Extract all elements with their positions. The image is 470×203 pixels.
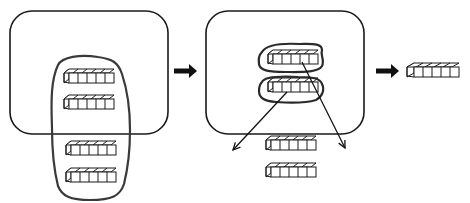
arrow-split-right-icon: [302, 62, 345, 148]
panel-1: [10, 11, 168, 200]
cube-bar: [266, 136, 316, 150]
cube-bar: [266, 163, 316, 177]
cube-bar: [66, 141, 116, 155]
cube-bar: [64, 69, 114, 83]
cube-bar: [64, 95, 114, 109]
cube-bar: [407, 63, 459, 77]
bar-group-2-outside: [266, 136, 316, 177]
panel-3: [407, 63, 459, 77]
arrow-2-icon: [376, 64, 399, 78]
arrow-1-icon: [174, 64, 197, 78]
diagram-svg: [0, 0, 470, 203]
bar-group-1: [64, 69, 116, 182]
bar-group-3-result: [407, 63, 459, 77]
panel-2: [206, 11, 364, 177]
cube-bar: [268, 50, 318, 64]
cube-bar: [66, 168, 116, 182]
diagram-canvas: [0, 0, 470, 203]
